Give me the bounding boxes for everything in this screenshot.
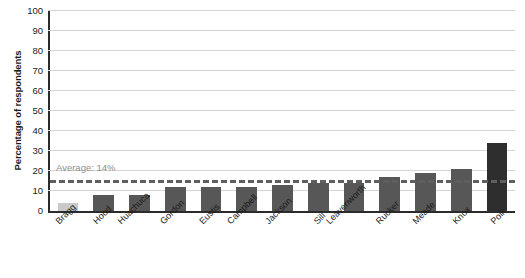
average-line xyxy=(50,180,515,183)
x-label-slot: Polk xyxy=(481,214,517,278)
x-label-slot: Knox xyxy=(445,214,481,278)
y-tick-label: 20 xyxy=(32,165,43,176)
bar-chart: Percentage of respondents 10090807060504… xyxy=(0,0,525,278)
x-axis-labels: BraggHoodHuachucaGordonEustisCampbellJac… xyxy=(50,214,517,278)
y-tick-label: 30 xyxy=(32,145,43,156)
bar-sill[interactable] xyxy=(308,183,329,211)
y-tick-label: 50 xyxy=(32,105,43,116)
y-tick-label: 0 xyxy=(38,205,43,216)
average-line-label: Average: 14% xyxy=(56,162,116,173)
bar-knox[interactable] xyxy=(451,169,472,211)
x-label-slot: Hood xyxy=(86,214,122,278)
y-tick-label: 40 xyxy=(32,125,43,136)
y-tick-label: 70 xyxy=(32,65,43,76)
x-label-slot: Bragg xyxy=(50,214,86,278)
y-axis-title: Percentage of respondents xyxy=(12,31,23,191)
x-label-slot: Gordon xyxy=(158,214,194,278)
x-label-slot: Rucker xyxy=(373,214,409,278)
y-tick-label: 90 xyxy=(32,25,43,36)
y-tick-label: 10 xyxy=(32,185,43,196)
x-label-slot: Huachuca xyxy=(122,214,158,278)
y-tick-label: 100 xyxy=(27,5,43,16)
x-label-slot: Meade xyxy=(409,214,445,278)
x-label-slot: Jackson xyxy=(266,214,302,278)
x-label-slot: Eustis xyxy=(194,214,230,278)
y-tick-label: 60 xyxy=(32,85,43,96)
plot-area: 1009080706050403020100 Average: 14% xyxy=(48,11,515,213)
bar-polk[interactable] xyxy=(487,143,508,211)
x-label-slot: Leavenworth xyxy=(337,214,373,278)
y-tick-label: 80 xyxy=(32,45,43,56)
x-label-slot: Campbell xyxy=(230,214,266,278)
